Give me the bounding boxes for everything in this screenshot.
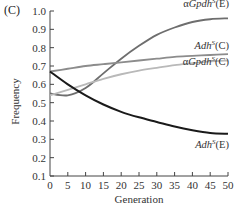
x-tick-label: 45 (205, 179, 217, 191)
x-tick-label: 5 (65, 179, 71, 191)
series-label: AdhS(E) (194, 138, 229, 151)
series-line (50, 72, 228, 134)
y-tick-label: 0.8 (32, 42, 46, 54)
x-axis-title: Generation (115, 193, 164, 205)
y-tick-label: 0.6 (32, 78, 46, 90)
series-label: αGpdhS(E) (183, 0, 229, 10)
y-tick-label: 0.4 (32, 115, 46, 127)
x-tick-label: 30 (151, 179, 163, 191)
y-tick-label: 0.3 (32, 133, 46, 145)
x-tick-label: 25 (134, 179, 146, 191)
panel-label: (C) (4, 3, 20, 17)
y-tick-label: 0.7 (32, 60, 46, 72)
y-tick-label: 0.9 (32, 23, 46, 35)
x-tick-label: 50 (223, 179, 235, 191)
y-tick-label: 1.0 (32, 5, 46, 17)
x-tick-label: 20 (116, 179, 128, 191)
series-lines (50, 18, 228, 133)
x-tick-label: 0 (47, 179, 53, 191)
x-tick-label: 15 (98, 179, 110, 191)
series-label: αGpdhS(C) (183, 55, 230, 68)
x-axis: 05101520253035404550 (47, 172, 234, 191)
x-tick-label: 35 (169, 179, 181, 191)
y-tick-label: 0.5 (32, 97, 46, 109)
series-label: AdhS(C) (194, 39, 230, 52)
x-tick-label: 40 (187, 179, 199, 191)
y-tick-label: 0.2 (32, 152, 46, 164)
x-tick-label: 10 (80, 179, 92, 191)
y-axis-title: Frequency (9, 78, 21, 125)
frequency-chart: (C) 0.10.20.30.40.50.60.70.80.91.0 05101… (0, 0, 234, 206)
y-tick-label: 0.1 (32, 170, 46, 182)
